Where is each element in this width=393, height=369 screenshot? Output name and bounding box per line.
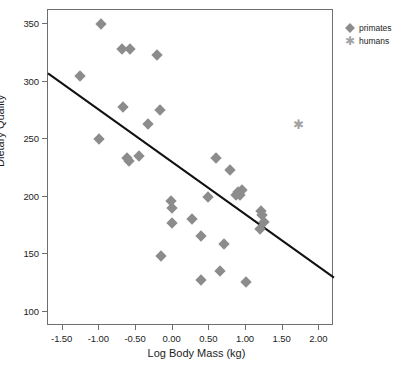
chart-legend: primates ✱ humans — [345, 22, 393, 48]
x-tick-label: 0.00 — [163, 333, 181, 344]
x-tick-label: -1.00 — [88, 333, 109, 344]
y-tick-label: 300 — [3, 75, 39, 86]
x-tick-label: 0.50 — [199, 333, 217, 344]
y-tick-label: 100 — [3, 306, 39, 317]
x-tick-mark — [282, 325, 283, 330]
x-tick-mark — [62, 325, 63, 330]
y-tick-label: 200 — [3, 190, 39, 201]
trend-line — [48, 10, 334, 326]
x-tick-label: 1.00 — [236, 333, 254, 344]
y-tick-mark — [42, 23, 47, 24]
plot-area: ✱ — [47, 9, 333, 325]
y-tick-label: 150 — [3, 248, 39, 259]
x-tick-mark — [208, 325, 209, 330]
legend-item-primates: primates — [345, 22, 393, 34]
y-tick-label: 350 — [3, 17, 39, 28]
y-tick-mark — [42, 196, 47, 197]
x-tick-label: 1.50 — [273, 333, 291, 344]
legend-label-primates: primates — [359, 23, 392, 33]
legend-label-humans: humans — [359, 36, 389, 46]
x-tick-mark — [135, 325, 136, 330]
data-point-humans: ✱ — [293, 118, 304, 131]
y-tick-mark — [42, 81, 47, 82]
x-tick-mark — [318, 325, 319, 330]
asterisk-icon: ✱ — [345, 36, 356, 47]
y-tick-mark — [42, 138, 47, 139]
x-tick-label: -0.50 — [124, 333, 145, 344]
trend-line-segment — [48, 73, 334, 277]
x-tick-label: 2.00 — [309, 333, 327, 344]
diamond-icon — [345, 23, 356, 34]
y-tick-mark — [42, 311, 47, 312]
y-axis-title: Dietary Quality — [0, 95, 6, 167]
x-tick-mark — [172, 325, 173, 330]
y-tick-label: 250 — [3, 133, 39, 144]
x-axis-title: Log Body Mass (kg) — [0, 347, 393, 359]
y-tick-mark — [42, 253, 47, 254]
scatter-chart: ✱ Dietary Quality Log Body Mass (kg) pri… — [0, 0, 393, 369]
x-tick-label: -1.50 — [51, 333, 72, 344]
x-tick-mark — [98, 325, 99, 330]
legend-item-humans: ✱ humans — [345, 35, 393, 47]
plot-surface: ✱ — [48, 10, 332, 324]
x-tick-mark — [245, 325, 246, 330]
